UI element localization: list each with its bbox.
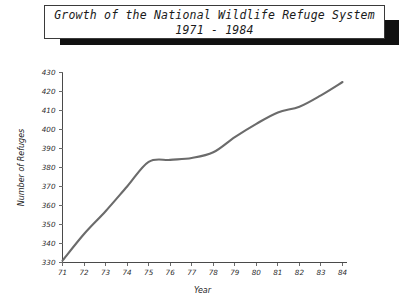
y-tick-label: 400 — [42, 125, 56, 134]
chart-title-line-2: 1971 - 1984 — [175, 23, 253, 38]
y-tick-label: 390 — [42, 144, 56, 153]
y-tick-label: 360 — [42, 201, 56, 210]
y-tick-label: 350 — [42, 220, 56, 229]
x-tick-label: 74 — [123, 268, 133, 277]
data-series-line — [63, 82, 343, 261]
x-tick-label: 72 — [79, 268, 89, 277]
x-tick-label: 81 — [273, 268, 282, 277]
line-chart-svg: 3303403503603703803904004104204307172737… — [0, 0, 413, 307]
x-tick-label: 77 — [187, 268, 197, 277]
x-tick-label: 79 — [230, 268, 240, 277]
chart-page: 3303403503603703803904004104204307172737… — [0, 0, 413, 307]
x-tick-label: 82 — [295, 268, 305, 277]
x-tick-label: 73 — [101, 268, 111, 277]
x-tick-label: 83 — [316, 268, 326, 277]
x-tick-label: 76 — [166, 268, 176, 277]
y-axis-title: Number of Refuges — [17, 129, 26, 206]
y-tick-label: 330 — [42, 258, 56, 267]
x-axis-title: Year — [194, 286, 212, 295]
x-tick-label: 84 — [338, 268, 348, 277]
y-tick-label: 370 — [42, 182, 56, 191]
x-tick-label: 80 — [252, 268, 262, 277]
y-tick-label: 340 — [42, 239, 56, 248]
chart-title-box: Growth of the National Wildlife Refuge S… — [44, 5, 385, 39]
plot-area: 3303403503603703803904004104204307172737… — [0, 0, 413, 307]
chart-axes — [63, 73, 347, 263]
x-tick-label: 71 — [58, 268, 67, 277]
y-tick-label: 410 — [42, 106, 56, 115]
y-tick-label: 430 — [42, 68, 56, 77]
x-tick-label: 78 — [209, 268, 219, 277]
y-tick-label: 420 — [42, 87, 56, 96]
x-tick-label: 75 — [144, 268, 154, 277]
chart-title-line-1: Growth of the National Wildlife Refuge S… — [54, 8, 375, 23]
y-tick-label: 380 — [42, 163, 56, 172]
